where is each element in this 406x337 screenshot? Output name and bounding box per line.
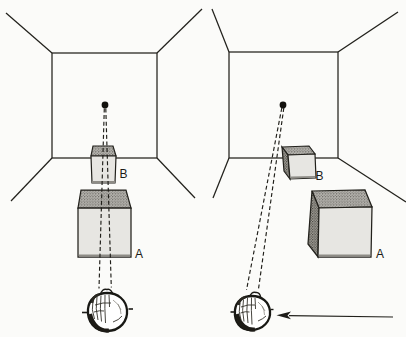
right-cube-a-top-face bbox=[312, 190, 372, 208]
left-ceiling-edge-right bbox=[157, 9, 202, 53]
perception-diagram: B A bbox=[0, 0, 406, 337]
left-floor-edge-right bbox=[157, 158, 195, 198]
left-cube-a-label: A bbox=[135, 247, 143, 261]
right-fixation-dot-icon bbox=[280, 102, 287, 109]
viewpoint-arrow-icon bbox=[277, 312, 394, 320]
right-ceiling-edge-right bbox=[338, 12, 398, 52]
right-floor-edge-left bbox=[213, 158, 229, 198]
left-cube-b-label: B bbox=[120, 167, 128, 181]
diagram-canvas: B A bbox=[0, 0, 406, 337]
left-floor-edge-left bbox=[11, 158, 52, 201]
right-sight-line-1 bbox=[247, 108, 282, 290]
right-ceiling-edge-left bbox=[212, 9, 229, 52]
right-cube-b bbox=[282, 146, 316, 179]
left-eye-icon bbox=[82, 289, 133, 331]
left-cube-a-front-face bbox=[78, 208, 131, 257]
right-cube-a bbox=[308, 190, 372, 257]
arrow-head bbox=[277, 312, 292, 320]
left-cube-b-front-face bbox=[91, 156, 116, 183]
left-cube-a-top-face bbox=[78, 190, 131, 208]
left-panel: B A bbox=[6, 9, 202, 331]
right-cube-b-label: B bbox=[316, 169, 324, 183]
left-fixation-dot-icon bbox=[102, 102, 109, 109]
right-cube-a-front-face bbox=[318, 207, 372, 257]
right-cube-a-label: A bbox=[376, 247, 384, 261]
right-sight-line-2 bbox=[259, 108, 284, 289]
right-sight-lines bbox=[247, 108, 284, 290]
left-ceiling-edge-left bbox=[6, 13, 52, 53]
right-cube-b-front-face bbox=[288, 154, 316, 179]
left-cube-a bbox=[78, 190, 131, 257]
right-panel: B A bbox=[212, 9, 406, 330]
right-cube-b-base-shadow bbox=[291, 177, 315, 178]
arrow-shaft bbox=[289, 316, 393, 317]
right-eye-icon bbox=[231, 292, 274, 330]
